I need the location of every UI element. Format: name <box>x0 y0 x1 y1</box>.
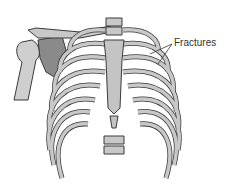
vertebra <box>106 27 122 35</box>
humerus-bone <box>14 40 39 100</box>
xiphoid-process <box>110 116 118 128</box>
vertebra <box>106 18 122 26</box>
fractures-label: Fractures <box>174 37 216 48</box>
vertebra <box>104 146 124 154</box>
vertebra <box>104 136 124 144</box>
sternum-bone <box>104 40 124 114</box>
rib-cage-illustration <box>0 0 228 193</box>
